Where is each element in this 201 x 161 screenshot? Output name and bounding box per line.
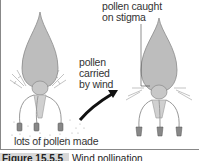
- flower-left: [10, 12, 66, 131]
- label-pollen-made: lots of pollen made: [14, 136, 98, 147]
- figure-number: Figure 15.5.5: [0, 153, 69, 161]
- flower-right: [126, 18, 192, 136]
- label-line: by wind: [79, 79, 113, 90]
- label-line: on stigma: [102, 12, 162, 23]
- figure-title: Wind pollination: [72, 153, 143, 161]
- label-pollen-carried: pollen carried by wind: [79, 57, 113, 90]
- label-pollen-caught: pollen caught on stigma: [102, 1, 162, 23]
- wind-arrow: [80, 94, 112, 120]
- figure-caption: Figure 15.5.5 Wind pollination: [0, 153, 201, 161]
